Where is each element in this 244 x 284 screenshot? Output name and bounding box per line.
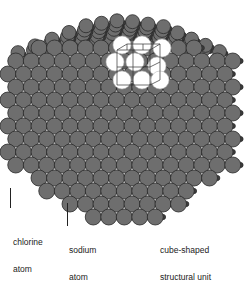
chlorine-atom-label: chlorine atom bbox=[13, 220, 43, 283]
sodium-leader-line bbox=[67, 203, 68, 226]
unit-label-line1: cube-shaped bbox=[160, 246, 211, 255]
chlorine-leader-line bbox=[10, 188, 11, 208]
cube-shaped-structural-unit bbox=[106, 36, 171, 89]
sodium-atom-label: sodium atom bbox=[69, 228, 96, 284]
unit-cell-label: cube-shaped structural unit bbox=[160, 228, 211, 284]
sodium-label-line1: sodium bbox=[69, 246, 96, 255]
chlorine-label-line2: atom bbox=[13, 265, 43, 274]
chlorine-label-line1: chlorine bbox=[13, 238, 43, 247]
unit-label-line2: structural unit bbox=[160, 273, 211, 282]
sodium-label-line2: atom bbox=[69, 273, 96, 282]
